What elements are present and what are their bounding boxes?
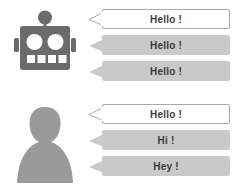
message-text: Hello ! (140, 40, 182, 51)
bubble-tail-icon (88, 37, 106, 55)
message-bubble[interactable]: Hello ! (88, 61, 234, 81)
message-bubble[interactable]: Hello ! (88, 9, 234, 29)
message-bubble[interactable]: Hello ! (88, 104, 234, 124)
conversation-group-robot: Hello ! Hello ! Hello ! (0, 0, 237, 95)
message-list-person: Hello ! Hi ! Hey ! (88, 104, 234, 182)
message-text: Hello ! (140, 14, 182, 25)
bubble-tail-icon (88, 158, 106, 176)
message-text: Hey ! (143, 161, 178, 172)
bubble-tail-icon (88, 132, 106, 150)
person-avatar (14, 103, 76, 175)
message-list-robot: Hello ! Hello ! Hello ! (88, 9, 234, 87)
bubble-tail-icon (88, 11, 106, 29)
conversation-group-person: Hello ! Hi ! Hey ! (0, 95, 237, 185)
bubble-tail-icon (88, 63, 106, 81)
message-bubble[interactable]: Hello ! (88, 35, 234, 55)
bubble-tail-icon (88, 106, 106, 124)
message-bubble[interactable]: Hi ! (88, 130, 234, 150)
message-bubble[interactable]: Hey ! (88, 156, 234, 176)
robot-avatar (14, 8, 76, 80)
message-text: Hi ! (148, 135, 175, 146)
message-text: Hello ! (140, 66, 182, 77)
chat-illustration: Hello ! Hello ! Hello ! (0, 0, 237, 185)
message-text: Hello ! (140, 109, 182, 120)
